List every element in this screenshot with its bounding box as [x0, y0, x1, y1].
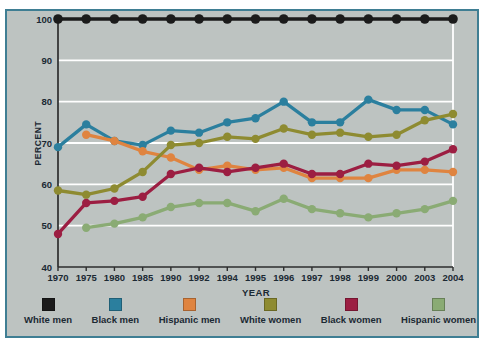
data-point-black-women: [167, 170, 175, 178]
x-tick-label: 1970: [47, 272, 68, 283]
x-tick-label: 1985: [132, 272, 154, 283]
data-point-white-women: [280, 124, 288, 132]
data-point-white-women: [54, 186, 62, 194]
data-point-black-men: [280, 97, 288, 105]
data-point-hispanic-women: [251, 207, 259, 215]
legend-item-black-men: Black men: [92, 298, 140, 325]
y-tick-label: 60: [41, 179, 52, 190]
data-point-black-women: [421, 157, 429, 165]
data-point-white-men: [110, 14, 120, 24]
data-point-hispanic-women: [308, 205, 316, 213]
data-point-black-men: [251, 114, 259, 122]
data-point-hispanic-men: [421, 166, 429, 174]
data-point-white-women: [449, 110, 457, 118]
data-point-black-men: [195, 128, 203, 136]
data-point-white-men: [251, 14, 261, 24]
data-point-white-men: [194, 14, 204, 24]
data-point-hispanic-women: [280, 195, 288, 203]
data-point-white-women: [392, 131, 400, 139]
legend-label: White men: [24, 314, 72, 325]
data-point-hispanic-women: [421, 205, 429, 213]
data-point-hispanic-men: [449, 168, 457, 176]
legend-swatch-black-men: [109, 298, 122, 311]
y-tick-label: 50: [41, 220, 52, 231]
y-axis-title: PERCENT: [33, 121, 43, 166]
data-point-black-women: [336, 170, 344, 178]
data-point-black-men: [336, 118, 344, 126]
data-point-white-women: [336, 128, 344, 136]
data-point-black-women: [308, 170, 316, 178]
data-point-hispanic-men: [82, 131, 90, 139]
data-point-black-women: [280, 159, 288, 167]
legend-swatch-hispanic-men: [183, 298, 196, 311]
legend: White men Black men Hispanic men White w…: [24, 298, 476, 325]
y-tick-label: 40: [41, 262, 52, 273]
legend-label: Black women: [321, 314, 382, 325]
x-tick-label: 2003: [414, 272, 435, 283]
legend-item-white-men: White men: [24, 298, 72, 325]
legend-swatch-white-men: [42, 298, 55, 311]
data-point-white-women: [364, 133, 372, 141]
data-point-white-men: [53, 14, 63, 24]
data-point-white-women: [110, 184, 118, 192]
legend-item-hispanic-women: Hispanic women: [401, 298, 476, 325]
legend-swatch-black-women: [345, 298, 358, 311]
data-point-black-women: [195, 164, 203, 172]
data-point-hispanic-men: [167, 153, 175, 161]
data-point-black-women: [251, 164, 259, 172]
data-point-black-men: [223, 118, 231, 126]
y-tick-label: 100: [36, 14, 52, 25]
data-point-black-men: [308, 118, 316, 126]
legend-swatch-hispanic-women: [432, 298, 445, 311]
data-point-white-men: [364, 14, 374, 24]
data-point-white-women: [167, 141, 175, 149]
data-point-white-men: [335, 14, 345, 24]
legend-item-white-women: White women: [240, 298, 301, 325]
data-point-black-men: [54, 143, 62, 151]
x-tick-label: 1997: [301, 272, 322, 283]
data-point-white-women: [138, 168, 146, 176]
legend-label: Hispanic men: [159, 314, 221, 325]
data-point-black-men: [82, 120, 90, 128]
data-point-white-men: [222, 14, 232, 24]
data-point-black-women: [82, 199, 90, 207]
wage-gap-figure: 1970197519801985199019921994199519961997…: [0, 0, 486, 347]
data-point-black-men: [449, 120, 457, 128]
x-tick-label: 1980: [104, 272, 125, 283]
x-axis-title: YEAR: [242, 287, 270, 298]
data-point-white-women: [82, 190, 90, 198]
x-tick-label: 2000: [386, 272, 407, 283]
data-point-hispanic-women: [138, 213, 146, 221]
data-point-white-men: [392, 14, 402, 24]
data-point-black-men: [392, 106, 400, 114]
y-tick-label: 70: [41, 138, 52, 149]
x-tick-label: 2004: [442, 272, 464, 283]
data-point-black-women: [392, 162, 400, 170]
data-point-hispanic-women: [364, 213, 372, 221]
data-point-white-men: [81, 14, 91, 24]
legend-label: Hispanic women: [401, 314, 476, 325]
data-point-white-women: [223, 133, 231, 141]
data-point-white-women: [308, 131, 316, 139]
data-point-black-women: [223, 168, 231, 176]
data-point-white-men: [420, 14, 430, 24]
data-point-hispanic-women: [167, 203, 175, 211]
legend-label: Black men: [92, 314, 140, 325]
data-point-white-women: [251, 135, 259, 143]
series-line-white-women: [58, 114, 453, 195]
data-point-black-women: [449, 145, 457, 153]
data-point-black-women: [54, 230, 62, 238]
data-point-hispanic-women: [449, 197, 457, 205]
x-tick-label: 1999: [358, 272, 379, 283]
data-point-white-men: [307, 14, 317, 24]
x-tick-label: 1995: [245, 272, 267, 283]
data-point-black-men: [167, 126, 175, 134]
data-point-black-women: [138, 193, 146, 201]
legend-swatch-white-women: [264, 298, 277, 311]
x-tick-label: 1994: [217, 272, 239, 283]
data-point-hispanic-women: [195, 199, 203, 207]
data-point-hispanic-men: [364, 174, 372, 182]
x-tick-label: 1975: [76, 272, 98, 283]
data-point-hispanic-women: [223, 199, 231, 207]
data-point-hispanic-women: [392, 209, 400, 217]
